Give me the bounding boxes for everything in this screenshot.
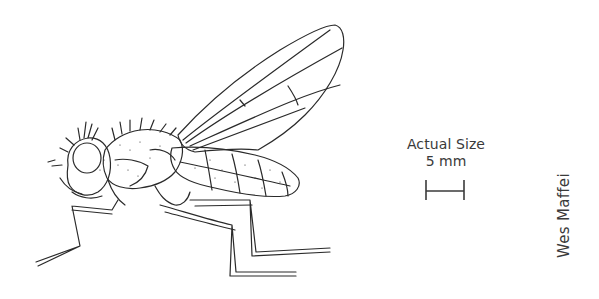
middle-leg-segment — [165, 212, 235, 230]
hind-leg — [190, 200, 330, 256]
compound-eye — [73, 143, 101, 173]
wing-vein — [193, 108, 305, 150]
stippling — [99, 141, 280, 188]
wing-vein — [186, 48, 342, 143]
wing-vein — [190, 85, 340, 146]
scale-indicator: Actual Size 5 mm — [398, 136, 494, 170]
abdomen — [171, 147, 299, 196]
front-leg-segment — [72, 210, 112, 214]
fly-illustration — [0, 0, 380, 299]
artist-credit: Wes Maffei — [555, 173, 573, 258]
hind-leg-segment — [195, 205, 252, 206]
scale-value: 5 mm — [398, 153, 494, 170]
scale-bar-icon — [425, 180, 465, 200]
wing-vein — [183, 30, 330, 140]
scale-title: Actual Size — [398, 136, 494, 153]
wing-outline — [178, 25, 344, 152]
